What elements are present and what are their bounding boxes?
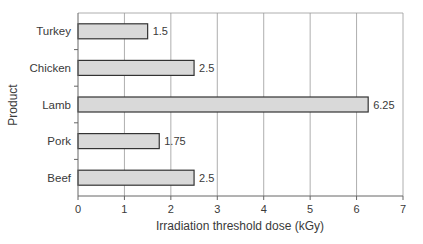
bar-pork [78,134,159,149]
bar-value-label: 1.5 [153,25,168,37]
x-tick-label: 0 [75,203,81,215]
bars: 1.52.56.251.752.5 [78,24,395,185]
x-tick-label: 3 [214,203,220,215]
x-tick-label: 5 [307,203,313,215]
y-tick-label: Chicken [29,62,71,74]
y-tick-label: Pork [47,135,71,147]
y-tick-label: Beef [47,172,71,184]
bar-value-label: 2.5 [199,172,214,184]
bar-beef [78,170,194,185]
bar-turkey [78,24,148,39]
y-tick-label: Lamb [42,99,71,111]
x-tick-label: 6 [354,203,360,215]
bar-chicken [78,60,194,75]
x-axis-label: Irradiation threshold dose (kGy) [156,219,324,233]
bar-value-label: 2.5 [199,62,214,74]
y-tick-label: Turkey [36,25,71,37]
x-tick-label: 1 [121,203,127,215]
x-tick-label: 2 [168,203,174,215]
bar-value-label: 6.25 [373,99,394,111]
bar-chart: 1.52.56.251.752.5 01234567TurkeyChickenL… [0,0,423,244]
bar-value-label: 1.75 [164,135,185,147]
x-tick-label: 7 [400,203,406,215]
y-axis-label: Product [6,84,20,126]
chart-canvas: 1.52.56.251.752.5 01234567TurkeyChickenL… [0,0,423,244]
x-tick-label: 4 [261,203,267,215]
bar-lamb [78,97,368,112]
